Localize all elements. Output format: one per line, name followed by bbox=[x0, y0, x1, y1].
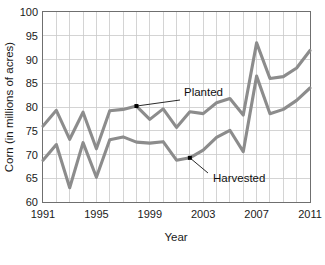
y-tick-label: 95 bbox=[26, 30, 38, 42]
y-tick-label: 75 bbox=[26, 125, 38, 137]
x-tick-label: 2003 bbox=[191, 208, 215, 220]
annotation-leader-line bbox=[190, 158, 208, 173]
annotation-marker bbox=[188, 156, 192, 160]
x-tick-label: 1991 bbox=[31, 208, 55, 220]
x-axis-title: Year bbox=[164, 231, 187, 243]
annotation-label-harvested: Harvested bbox=[213, 172, 265, 184]
chart-canvas: 6065707580859095100 19911995199920032007… bbox=[0, 0, 325, 265]
x-tick-label: 2007 bbox=[244, 208, 268, 220]
x-tick-label: 1995 bbox=[84, 208, 108, 220]
corn-acreage-line-chart: 6065707580859095100 19911995199920032007… bbox=[0, 0, 325, 265]
y-axis-ticks: 6065707580859095100 bbox=[20, 6, 38, 208]
y-axis-title: Corn (in millions of acres) bbox=[3, 42, 15, 173]
y-tick-label: 85 bbox=[26, 77, 38, 89]
x-tick-label: 1999 bbox=[138, 208, 162, 220]
y-tick-label: 100 bbox=[20, 6, 38, 18]
annotation-marker bbox=[134, 104, 138, 108]
annotation-leader-line bbox=[136, 100, 180, 106]
y-tick-label: 65 bbox=[26, 172, 38, 184]
x-axis-ticks: 199119951999200320072011 bbox=[31, 208, 322, 220]
y-tick-label: 60 bbox=[26, 196, 38, 208]
y-tick-label: 90 bbox=[26, 54, 38, 66]
y-tick-label: 70 bbox=[26, 149, 38, 161]
annotation-label-planted: Planted bbox=[184, 86, 223, 98]
y-tick-label: 80 bbox=[26, 101, 38, 113]
x-tick-label: 2011 bbox=[298, 208, 322, 220]
